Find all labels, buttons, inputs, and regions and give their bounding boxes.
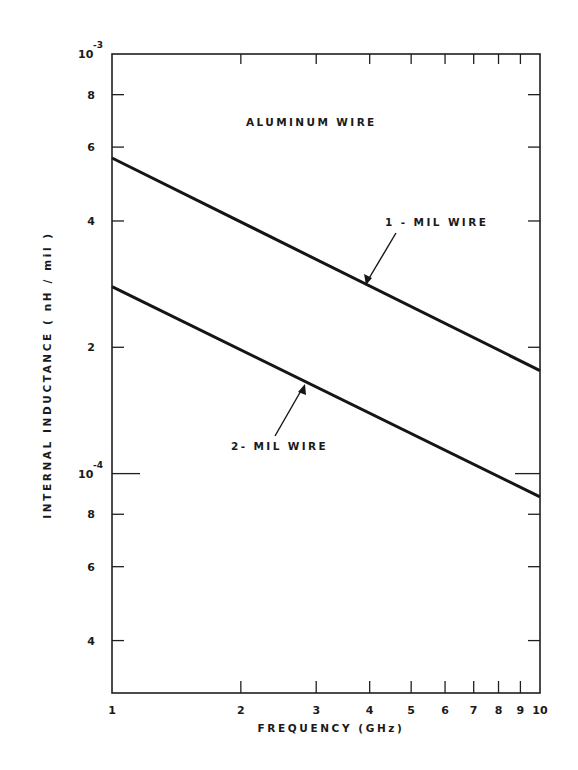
y-tick-exponent: -4 [93,460,103,470]
y-tick-label: 6 [87,141,95,154]
series-line-1 [112,158,540,371]
plot-frame [112,54,540,693]
x-tick-label: 1 [108,704,116,717]
series-label-1-mil: 1 - MIL WIRE [385,216,488,228]
y-tick-label: 8 [87,508,95,521]
arrow-1-mil [368,233,396,280]
y-tick-label: 4 [87,215,95,228]
y-tick-label: 4 [87,635,95,648]
x-tick-label: 7 [470,704,478,717]
inductance-chart: 1234567891010-3864210-4864 ALUMINUM WIRE… [0,0,578,770]
y-tick-label: 6 [87,561,95,574]
series-label-2-mil: 2- MIL WIRE [231,440,328,452]
y-tick-label: 8 [87,89,95,102]
x-tick-label: 4 [366,704,374,717]
x-tick-label: 5 [407,704,415,717]
axis-ticks [112,54,540,693]
series-line-2 [112,287,540,497]
x-tick-label: 3 [312,704,320,717]
y-axis-title: INTERNAL INDUCTANCE ( nH / mil ) [41,231,53,518]
y-tick-label: 10 [78,468,94,481]
y-tick-label: 2 [87,341,95,354]
y-tick-exponent: -3 [93,40,103,50]
arrow-2-mil [275,389,302,436]
axis-tick-labels: 1234567891010-3864210-4864 [78,40,548,717]
x-tick-label: 9 [517,704,525,717]
x-tick-label: 6 [441,704,449,717]
y-tick-label: 10 [78,48,94,61]
x-axis-title: FREQUENCY (GHz) [258,722,405,734]
x-tick-label: 8 [495,704,503,717]
x-tick-label: 10 [532,704,548,717]
x-tick-label: 2 [237,704,245,717]
chart-title: ALUMINUM WIRE [246,116,377,128]
